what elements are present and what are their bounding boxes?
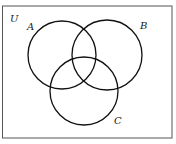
set-b-label: B — [139, 20, 147, 31]
venn-diagram: U A B C — [0, 0, 176, 144]
set-c-label: C — [114, 115, 122, 126]
set-a-circle — [28, 21, 96, 89]
set-a-label: A — [26, 21, 34, 32]
set-b-circle — [72, 20, 142, 90]
set-c-circle — [50, 57, 118, 125]
universe-label: U — [10, 13, 19, 24]
